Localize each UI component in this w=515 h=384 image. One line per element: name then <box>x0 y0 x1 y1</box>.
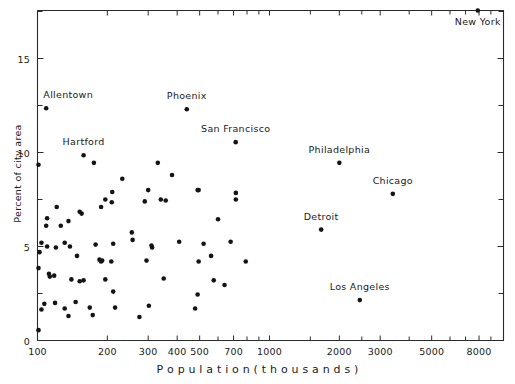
data-point <box>234 197 239 202</box>
x-tick-label: 100 <box>28 346 47 357</box>
data-point <box>163 198 168 203</box>
data-point <box>93 242 98 247</box>
data-point <box>36 328 41 333</box>
data-point <box>130 230 135 235</box>
x-tick-label: 300 <box>139 346 158 357</box>
data-point <box>54 245 59 250</box>
data-point <box>111 241 116 246</box>
data-point <box>195 292 200 297</box>
data-point <box>113 305 118 310</box>
data-point <box>209 254 214 259</box>
data-point <box>68 244 73 249</box>
city-label-allentown: Allentown <box>43 89 93 100</box>
data-point <box>103 197 108 202</box>
plot-canvas <box>0 0 515 384</box>
y-tick-label: 0 <box>8 335 30 346</box>
data-point <box>99 205 104 210</box>
data-point <box>66 219 71 224</box>
city-label-detroit: Detroit <box>304 211 339 222</box>
data-point <box>337 161 342 166</box>
scatter-plot-figure: 1002003004005007001000200030005000800005… <box>0 0 515 384</box>
data-point <box>120 177 125 182</box>
data-point <box>73 300 78 305</box>
data-point <box>36 162 41 167</box>
x-tick-label: 8000 <box>467 346 492 357</box>
data-point <box>37 250 42 255</box>
data-point <box>54 205 59 210</box>
x-tick-label: 3000 <box>368 346 393 357</box>
data-point <box>222 283 227 288</box>
city-label-philadelphia: Philadelphia <box>309 144 370 155</box>
data-point <box>177 240 182 245</box>
data-point <box>90 313 95 318</box>
data-point <box>77 279 82 284</box>
city-label-phoenix: Phoenix <box>167 90 207 101</box>
data-point <box>142 199 147 204</box>
x-tick-label: 1000 <box>257 346 282 357</box>
data-point <box>161 276 166 281</box>
y-axis-title: Percent of city area <box>12 109 23 239</box>
data-point <box>137 315 142 320</box>
data-point <box>109 200 114 205</box>
data-point <box>170 173 175 178</box>
y-tick-label: 15 <box>8 53 30 64</box>
data-point <box>196 259 201 264</box>
data-point <box>39 307 44 312</box>
data-point <box>58 224 63 229</box>
data-point <box>100 258 105 263</box>
data-point <box>62 306 67 311</box>
data-point <box>243 259 248 264</box>
data-point <box>184 107 189 112</box>
x-tick-label: 500 <box>190 346 209 357</box>
city-label-san-francisco: San Francisco <box>201 123 270 134</box>
x-tick-label: 2000 <box>327 346 352 357</box>
data-point <box>92 161 97 166</box>
plot-frame <box>38 11 504 341</box>
data-point <box>87 305 92 310</box>
data-point <box>52 273 57 278</box>
data-point <box>193 306 198 311</box>
data-point <box>144 258 149 263</box>
data-point <box>130 238 135 243</box>
data-point <box>211 278 216 283</box>
data-point <box>147 303 152 308</box>
data-point <box>79 211 84 216</box>
data-point <box>45 244 50 249</box>
data-point <box>150 245 155 250</box>
data-point <box>81 153 86 158</box>
city-label-hartford: Hartford <box>63 136 105 147</box>
data-point <box>75 254 80 259</box>
data-point <box>475 8 480 13</box>
data-point <box>53 301 58 306</box>
x-tick-label: 700 <box>224 346 243 357</box>
data-point <box>196 188 201 193</box>
data-point <box>319 227 324 232</box>
data-point <box>228 240 233 245</box>
data-point <box>45 216 50 221</box>
data-point <box>201 241 206 246</box>
data-point <box>69 277 74 282</box>
data-point <box>146 188 151 193</box>
data-point <box>357 298 362 303</box>
data-point <box>110 190 115 195</box>
data-point <box>81 278 86 283</box>
data-point <box>44 224 49 229</box>
data-point <box>39 240 44 245</box>
data-point <box>156 161 161 166</box>
data-point <box>111 289 116 294</box>
city-label-chicago: Chicago <box>373 175 413 186</box>
city-label-new-york: New York <box>455 16 501 27</box>
data-point <box>391 192 396 197</box>
y-tick-label: 5 <box>8 241 30 252</box>
x-tick-label: 5000 <box>419 346 444 357</box>
city-label-los-angeles: Los Angeles <box>330 281 390 292</box>
data-point <box>62 240 67 245</box>
data-point <box>42 302 47 307</box>
data-point <box>216 217 221 222</box>
data-point <box>44 106 49 111</box>
data-point <box>103 277 108 282</box>
data-point <box>234 191 239 196</box>
x-tick-label: 400 <box>168 346 187 357</box>
x-axis-title: P o p u l a t i o n ( t h o u s a n d s … <box>0 363 515 376</box>
data-point <box>109 259 114 264</box>
